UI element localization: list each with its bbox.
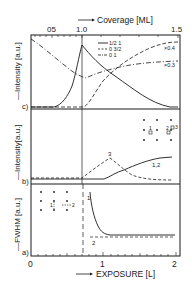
panel-label-a: a)	[22, 248, 29, 257]
exposure-axis-label: EXPOSURE [L]	[96, 269, 155, 279]
leed-inset-a	[40, 191, 71, 211]
coverage-axis-label: Coverage [ML]	[97, 15, 153, 25]
coverage-tick-15: 1.5	[171, 25, 183, 34]
panel-label-c: c)	[22, 102, 29, 111]
inset-a-label-1: 1	[50, 202, 53, 208]
label-b-12: 1,2	[152, 162, 161, 168]
label-a-2: 2	[92, 240, 96, 246]
exposure-tick-2: 2	[172, 259, 177, 269]
curve-zero-three-half	[31, 42, 178, 107]
exposure-arrow-head	[90, 273, 93, 276]
exposure-tick-1: 1	[100, 259, 105, 269]
curve-b-3	[31, 158, 172, 180]
inset-b-label-3: 3	[175, 124, 178, 130]
curve-b-12	[31, 157, 172, 179]
panel-label-b: b)	[22, 177, 29, 186]
curve-zero-one	[31, 39, 178, 78]
scale-annotation-04: ×0.4	[164, 45, 175, 51]
inset-a-label-2: 2	[72, 202, 75, 208]
ylabel-panel-a: —FWHM [a.u.]	[13, 198, 22, 251]
plot-frame	[31, 35, 180, 256]
figure: Coverage [ML] 05 1.0 1.5 0 1 2 EXPOSURE …	[0, 0, 192, 297]
inset-b-label-1: 1	[149, 125, 152, 131]
ylabel-panel-b: —Intensity[a.u.]	[13, 124, 22, 180]
inset-b-label-2: 2	[166, 125, 169, 131]
scale-annotation-03: ×0.3	[164, 62, 175, 68]
coverage-tick-05: 05	[47, 25, 56, 34]
coverage-tick-10: 1.0	[76, 25, 88, 34]
legend-zero-one: 0 1	[109, 52, 117, 58]
bottom-ticks	[38, 252, 176, 256]
leed-inset-b	[143, 119, 174, 141]
curve-half-one	[31, 45, 178, 107]
coverage-arrow-head	[92, 19, 95, 22]
exposure-tick-0: 0	[28, 259, 33, 269]
curve-a-1	[90, 192, 175, 235]
label-b-3: 3	[108, 151, 112, 157]
ylabel-panel-c: —Intensity [a.u.]	[13, 42, 22, 100]
